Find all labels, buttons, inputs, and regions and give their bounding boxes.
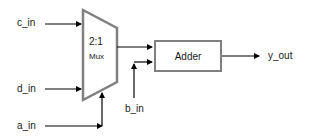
mux-label: Mux [89, 53, 104, 61]
adder-label: Adder [175, 51, 202, 62]
input-label-c-in: c_in [17, 18, 35, 28]
input-label-b-in: b_in [125, 104, 144, 114]
adder-block: Adder [154, 40, 222, 72]
mux-ratio-label: 2:1 [89, 37, 103, 47]
input-label-a-in: a_in [17, 121, 36, 131]
input-label-d-in: d_in [17, 84, 36, 94]
output-label-y-out: y_out [268, 51, 292, 61]
